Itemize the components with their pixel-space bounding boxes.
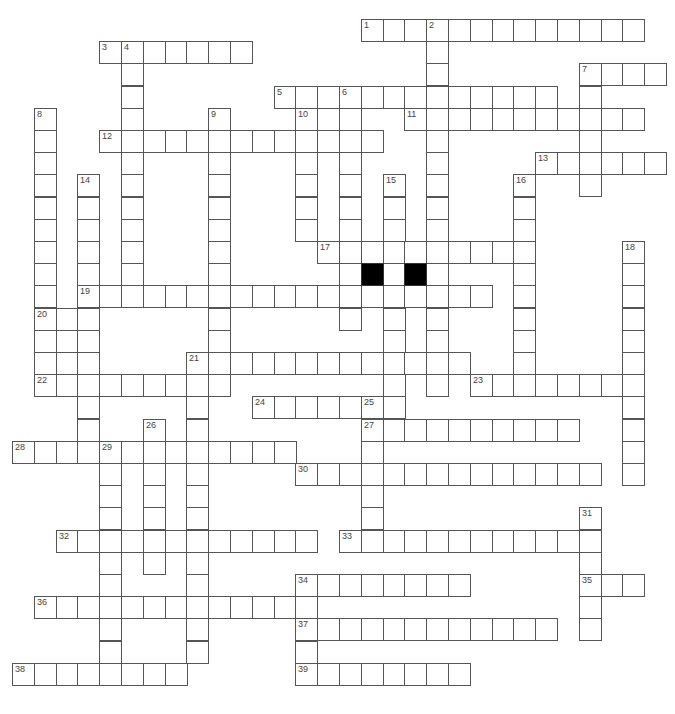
grid-cell[interactable] — [208, 41, 231, 64]
grid-cell[interactable]: 34 — [295, 574, 318, 597]
grid-cell[interactable] — [513, 419, 536, 442]
grid-cell[interactable] — [492, 19, 515, 42]
grid-cell[interactable]: 8 — [34, 108, 57, 131]
grid-cell[interactable] — [99, 663, 122, 686]
grid-cell[interactable] — [339, 574, 362, 597]
grid-cell[interactable] — [535, 463, 558, 486]
grid-cell[interactable] — [644, 63, 667, 86]
grid-cell[interactable] — [513, 197, 536, 220]
grid-cell[interactable] — [208, 219, 231, 242]
grid-cell[interactable] — [426, 263, 449, 286]
grid-cell[interactable] — [34, 663, 57, 686]
grid-cell[interactable] — [492, 241, 515, 264]
grid-cell[interactable] — [56, 308, 79, 331]
grid-cell[interactable] — [208, 441, 231, 464]
grid-cell[interactable] — [557, 152, 580, 175]
grid-cell[interactable] — [77, 263, 100, 286]
grid-cell[interactable] — [252, 530, 275, 553]
grid-cell[interactable] — [383, 374, 406, 397]
grid-cell[interactable] — [492, 374, 515, 397]
grid-cell[interactable] — [77, 330, 100, 353]
grid-cell[interactable] — [361, 485, 384, 508]
grid-cell[interactable] — [165, 596, 188, 619]
grid-cell[interactable] — [361, 574, 384, 597]
grid-cell[interactable] — [622, 396, 645, 419]
grid-cell[interactable] — [492, 419, 515, 442]
grid-cell[interactable] — [361, 352, 384, 375]
grid-cell[interactable] — [295, 86, 318, 109]
grid-cell[interactable] — [208, 263, 231, 286]
grid-cell[interactable] — [77, 441, 100, 464]
grid-cell[interactable] — [470, 618, 493, 641]
grid-cell[interactable] — [404, 352, 427, 375]
grid-cell[interactable] — [165, 130, 188, 153]
grid-cell[interactable] — [295, 285, 318, 308]
grid-cell[interactable] — [339, 197, 362, 220]
grid-cell[interactable] — [426, 285, 449, 308]
grid-cell[interactable] — [622, 574, 645, 597]
grid-cell[interactable] — [492, 530, 515, 553]
grid-cell[interactable] — [121, 285, 144, 308]
grid-cell[interactable]: 35 — [579, 574, 602, 597]
grid-cell[interactable] — [77, 374, 100, 397]
grid-cell[interactable] — [295, 219, 318, 242]
grid-cell[interactable] — [186, 463, 209, 486]
grid-cell[interactable] — [165, 374, 188, 397]
grid-cell[interactable] — [252, 352, 275, 375]
grid-cell[interactable] — [426, 308, 449, 331]
grid-cell[interactable] — [404, 663, 427, 686]
grid-cell[interactable] — [404, 241, 427, 264]
grid-cell[interactable] — [513, 374, 536, 397]
grid-cell[interactable] — [579, 530, 602, 553]
grid-cell[interactable] — [513, 285, 536, 308]
grid-cell[interactable] — [208, 308, 231, 331]
grid-cell[interactable] — [557, 108, 580, 131]
grid-cell[interactable] — [622, 108, 645, 131]
grid-cell[interactable] — [579, 374, 602, 397]
grid-cell[interactable] — [34, 263, 57, 286]
grid-cell[interactable] — [99, 463, 122, 486]
grid-cell[interactable] — [230, 285, 253, 308]
grid-cell[interactable] — [230, 596, 253, 619]
grid-cell[interactable] — [186, 41, 209, 64]
grid-cell[interactable] — [99, 641, 122, 664]
grid-cell[interactable] — [404, 618, 427, 641]
grid-cell[interactable] — [208, 197, 231, 220]
grid-cell[interactable] — [274, 352, 297, 375]
grid-cell[interactable] — [56, 330, 79, 353]
grid-cell[interactable] — [208, 374, 231, 397]
grid-cell[interactable] — [513, 19, 536, 42]
grid-cell[interactable]: 24 — [252, 396, 275, 419]
grid-cell[interactable] — [622, 308, 645, 331]
grid-cell[interactable] — [34, 241, 57, 264]
grid-cell[interactable] — [513, 352, 536, 375]
grid-cell[interactable] — [579, 86, 602, 109]
grid-cell[interactable] — [34, 152, 57, 175]
grid-cell[interactable] — [274, 396, 297, 419]
grid-cell[interactable] — [535, 419, 558, 442]
grid-cell[interactable] — [208, 330, 231, 353]
grid-cell[interactable] — [404, 574, 427, 597]
grid-cell[interactable] — [121, 596, 144, 619]
grid-cell[interactable] — [470, 285, 493, 308]
grid-cell[interactable] — [186, 507, 209, 530]
grid-cell[interactable] — [426, 174, 449, 197]
grid-cell[interactable] — [579, 19, 602, 42]
grid-cell[interactable] — [77, 352, 100, 375]
grid-cell[interactable]: 39 — [295, 663, 318, 686]
grid-cell[interactable] — [622, 63, 645, 86]
grid-cell[interactable] — [339, 152, 362, 175]
grid-cell[interactable] — [230, 130, 253, 153]
grid-cell[interactable] — [121, 241, 144, 264]
grid-cell[interactable] — [579, 152, 602, 175]
grid-cell[interactable] — [34, 130, 57, 153]
grid-cell[interactable] — [470, 108, 493, 131]
grid-cell[interactable] — [492, 618, 515, 641]
grid-cell[interactable] — [186, 485, 209, 508]
grid-cell[interactable] — [339, 396, 362, 419]
grid-cell[interactable] — [426, 41, 449, 64]
grid-cell[interactable] — [34, 197, 57, 220]
grid-cell[interactable] — [601, 19, 624, 42]
grid-cell[interactable] — [448, 530, 471, 553]
grid-cell[interactable]: 27 — [361, 419, 384, 442]
